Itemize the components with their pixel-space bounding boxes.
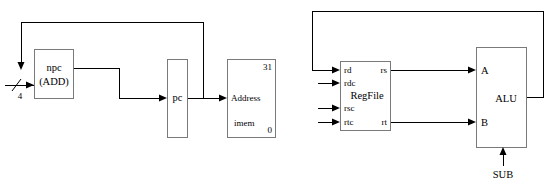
wire-regfile-rt-to-alu-b bbox=[391, 119, 477, 126]
regfile-name-label: RegFile bbox=[350, 90, 384, 101]
wire-regfile-rs-to-alu-a bbox=[391, 67, 477, 74]
wire-sub-control-to-alu bbox=[500, 147, 507, 166]
regfile-port-rdc-label: rdc bbox=[344, 78, 356, 88]
regfile-port-rsc-label: rsc bbox=[344, 103, 355, 113]
wire-pc-to-imem-address bbox=[188, 95, 228, 102]
pc-label: pc bbox=[173, 92, 183, 103]
datapath-diagram: 4 npc (ADD) pc 31 Address imem 0 bbox=[0, 0, 552, 190]
wire-constant-four-to-npc bbox=[5, 79, 34, 91]
arrowhead-alu-b-input bbox=[468, 119, 476, 126]
imem-lsb-label: 0 bbox=[268, 125, 273, 135]
npc-label-line1: npc bbox=[46, 62, 62, 73]
regfile-port-rt-label: rt bbox=[382, 117, 388, 127]
arrowhead-regfile-rdc-input bbox=[332, 80, 340, 87]
regfile-port-rtc-label: rtc bbox=[344, 117, 354, 127]
wire-npc-to-pc bbox=[74, 68, 168, 102]
regfile-port-rs-label: rs bbox=[381, 65, 388, 75]
imem-name-label: imem bbox=[234, 118, 255, 128]
imem-address-port-label: Address bbox=[231, 93, 261, 103]
arrowhead-pc-input bbox=[159, 95, 167, 102]
alu-name-label: ALU bbox=[495, 93, 517, 104]
wire-regfile-rdc-input bbox=[318, 80, 340, 87]
alu-port-b-label: B bbox=[481, 117, 488, 128]
arrowhead-regfile-rtc-input bbox=[332, 119, 340, 126]
wire-regfile-rtc-input bbox=[318, 119, 340, 126]
arrowhead-regfile-rd-input bbox=[332, 67, 340, 74]
arrowhead-regfile-rsc-input bbox=[332, 105, 340, 112]
npc-adder-block bbox=[35, 50, 74, 99]
constant-four-label: 4 bbox=[18, 91, 23, 101]
sub-control-label: SUB bbox=[493, 169, 513, 180]
alu-port-a-label: A bbox=[481, 65, 489, 76]
imem-msb-label: 31 bbox=[263, 62, 272, 72]
arrowhead-imem-address-input bbox=[219, 95, 227, 102]
regfile-port-rd-label: rd bbox=[344, 65, 352, 75]
arrowhead-npc-top-input bbox=[18, 62, 25, 70]
diagram-canvas: 4 npc (ADD) pc 31 Address imem 0 bbox=[0, 0, 552, 190]
npc-label-line2: (ADD) bbox=[39, 76, 69, 88]
arrowhead-alu-a-input bbox=[468, 67, 476, 74]
wire-regfile-rsc-input bbox=[318, 105, 340, 112]
arrowhead-alu-sub-input bbox=[500, 147, 507, 155]
